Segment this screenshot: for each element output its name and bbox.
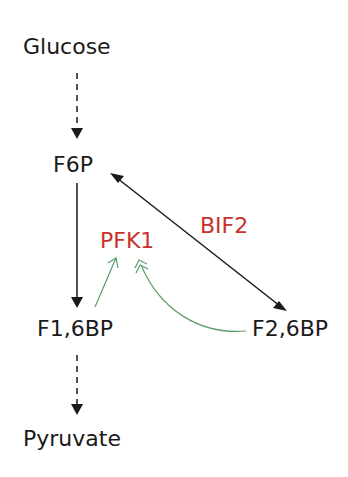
node-f6p: F6P	[53, 154, 93, 176]
activation-f26bp-to-pfk1	[135, 260, 246, 331]
arrow-f6p-to-f16bp	[71, 183, 83, 308]
activation-f16bp-to-pfk1	[95, 258, 118, 307]
arrow-f16bp-to-pyruvate	[71, 355, 83, 415]
enzyme-bif2: BIF2	[200, 215, 248, 237]
enzyme-pfk1: PFK1	[100, 230, 154, 252]
arrow-glucose-to-f6p	[71, 73, 83, 139]
node-f16bp: F1,6BP	[37, 318, 113, 340]
pathway-diagram	[0, 0, 348, 477]
node-f26bp: F2,6BP	[252, 318, 328, 340]
node-glucose: Glucose	[23, 36, 111, 58]
node-pyruvate: Pyruvate	[23, 428, 121, 450]
